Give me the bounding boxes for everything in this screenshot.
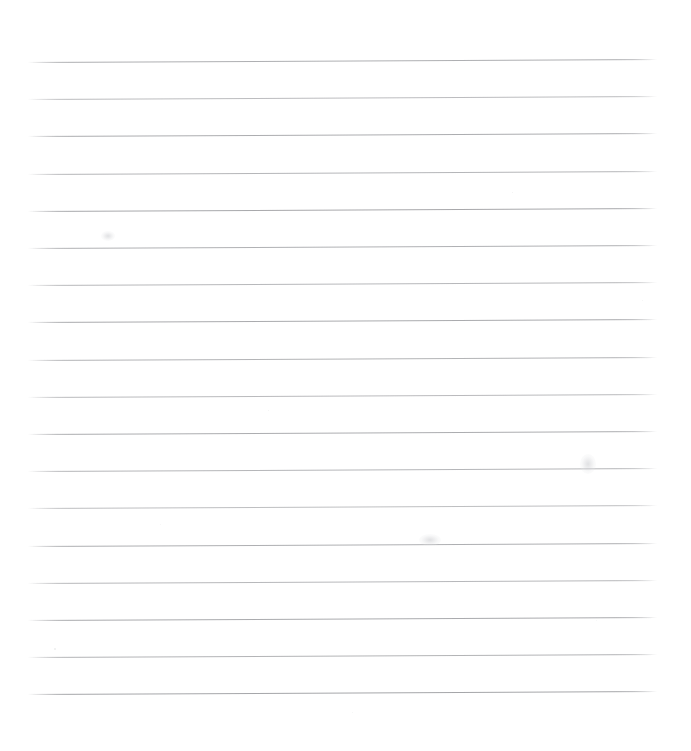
- writing-area[interactable]: [28, 44, 657, 712]
- scanned-page: [0, 0, 691, 751]
